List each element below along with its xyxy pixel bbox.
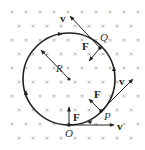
svg-text:×: × [16,78,21,85]
svg-text:×: × [100,22,105,29]
svg-text:×: × [79,92,84,99]
svg-text:×: × [135,64,140,71]
point-label-p: P [103,110,111,122]
svg-text:×: × [44,22,49,29]
svg-text:×: × [30,78,35,85]
svg-text:×: × [135,8,140,15]
svg-text:×: × [37,92,42,99]
svg-text:×: × [135,120,140,127]
svg-text:×: × [37,64,42,71]
svg-text:×: × [72,134,77,141]
svg-text:×: × [16,106,21,113]
svg-text:×: × [58,50,63,57]
svg-text:×: × [79,64,84,71]
svg-text:×: × [114,22,119,29]
svg-text:×: × [23,120,28,127]
svg-text:×: × [58,134,63,141]
svg-text:×: × [44,134,49,141]
svg-text:×: × [121,92,126,99]
velocity-label-q: v [60,12,66,24]
svg-text:×: × [72,50,77,57]
svg-text:×: × [30,22,35,29]
svg-text:×: × [9,92,14,99]
svg-text:×: × [79,8,84,15]
svg-text:×: × [51,36,56,43]
svg-text:×: × [86,134,91,141]
svg-text:×: × [16,134,21,141]
svg-text:×: × [9,64,14,71]
svg-text:×: × [135,92,140,99]
svg-text:×: × [107,8,112,15]
svg-text:×: × [16,22,21,29]
svg-text:×: × [121,36,126,43]
svg-text:×: × [9,36,14,43]
svg-text:×: × [9,120,14,127]
svg-text:×: × [58,78,63,85]
magnetic-field-circular-motion-diagram: ××××××××××××××××××××××××××××××××××××××××… [0,0,145,150]
svg-text:×: × [93,120,98,127]
svg-text:×: × [121,8,126,15]
svg-text:×: × [114,50,119,57]
radius-label: R [55,62,63,74]
svg-text:×: × [65,8,70,15]
svg-text:×: × [100,134,105,141]
svg-text:×: × [100,78,105,85]
svg-text:×: × [86,106,91,113]
svg-text:×: × [135,36,140,43]
point-label-o: O [65,127,73,139]
svg-text:×: × [44,106,49,113]
point-label-q: Q [100,31,108,43]
svg-text:×: × [37,8,42,15]
svg-text:×: × [72,78,77,85]
svg-text:×: × [114,134,119,141]
svg-text:×: × [16,50,21,57]
svg-text:×: × [121,64,126,71]
svg-text:×: × [65,92,70,99]
svg-text:×: × [51,92,56,99]
force-label-q: F [82,40,89,52]
svg-text:×: × [23,36,28,43]
svg-text:×: × [128,50,133,57]
svg-text:×: × [128,22,133,29]
svg-text:×: × [65,36,70,43]
svg-text:×: × [107,36,112,43]
svg-text:×: × [37,120,42,127]
force-label-p: F [94,88,101,100]
velocity-label-p: v [119,75,125,87]
svg-text:×: × [44,78,49,85]
svg-text:×: × [51,8,56,15]
velocity-label-o: v [117,120,123,132]
svg-text:×: × [86,22,91,29]
svg-text:×: × [107,64,112,71]
svg-text:×: × [23,8,28,15]
svg-text:×: × [93,8,98,15]
svg-text:×: × [93,64,98,71]
svg-text:×: × [128,134,133,141]
svg-text:×: × [86,78,91,85]
svg-text:×: × [30,134,35,141]
svg-text:×: × [114,106,119,113]
svg-text:×: × [65,64,70,71]
svg-text:×: × [58,106,63,113]
svg-text:×: × [128,106,133,113]
force-label-o: F [73,111,80,123]
svg-text:×: × [9,8,14,15]
